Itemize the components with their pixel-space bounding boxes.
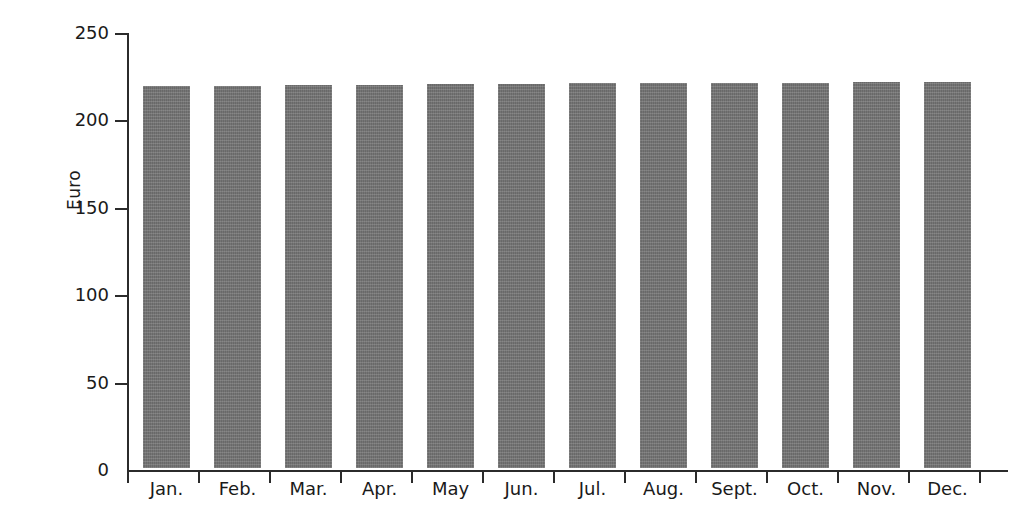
bar-feb bbox=[214, 86, 261, 468]
y-tick-50 bbox=[115, 383, 127, 385]
bar-chart: Euro 250 200 150 100 50 0 bbox=[0, 0, 1022, 514]
y-tick-100 bbox=[115, 295, 127, 297]
y-tick-label-250: 250 bbox=[49, 24, 109, 42]
bar-apr bbox=[356, 85, 403, 468]
bar-may bbox=[427, 84, 474, 468]
y-tick-150 bbox=[115, 208, 127, 210]
y-tick-label-200: 200 bbox=[49, 111, 109, 129]
x-tick-label-dec: Dec. bbox=[893, 479, 1003, 499]
bar-dec bbox=[924, 82, 971, 468]
bar-jul bbox=[569, 83, 616, 468]
y-tick-200 bbox=[115, 120, 127, 122]
y-tick-label-0: 0 bbox=[49, 461, 109, 479]
y-tick-label-50: 50 bbox=[49, 374, 109, 392]
y-axis-line bbox=[127, 33, 129, 471]
bar-sept bbox=[711, 83, 758, 469]
bar-nov bbox=[853, 82, 900, 468]
y-tick-label-150: 150 bbox=[49, 199, 109, 217]
bar-aug bbox=[640, 83, 687, 468]
plot-area: 250 200 150 100 50 0 bbox=[127, 33, 1008, 470]
bar-mar bbox=[285, 85, 332, 468]
bar-jun bbox=[498, 84, 545, 468]
y-tick-250 bbox=[115, 33, 127, 35]
x-axis-line bbox=[127, 470, 1008, 472]
bar-oct bbox=[782, 83, 829, 469]
bar-jan bbox=[143, 86, 190, 468]
y-axis-title: Euro bbox=[64, 110, 84, 270]
y-tick-label-100: 100 bbox=[49, 286, 109, 304]
